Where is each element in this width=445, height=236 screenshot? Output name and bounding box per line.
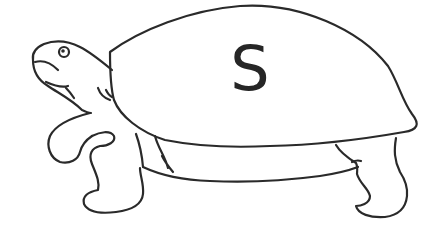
turtle-drawing [0,0,445,236]
jaw-line [46,82,74,98]
head-outline [33,42,112,113]
eye-pupil [61,49,65,53]
front-leg-raised [48,113,92,163]
plastron-line [143,167,358,182]
mouth-line [35,61,58,70]
back-leg-fold [352,160,361,162]
back-leg [336,138,407,217]
neck-wrinkle [98,88,112,100]
shell-letter: S [228,34,272,104]
front-leg-standing [84,132,144,213]
front-leg-inner [136,134,143,167]
